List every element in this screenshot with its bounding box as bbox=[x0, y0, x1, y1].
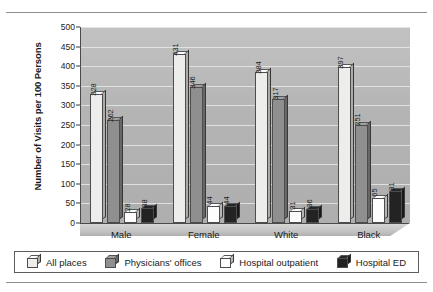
bar[interactable]: 431 bbox=[173, 54, 186, 223]
bar-slot: 81 bbox=[388, 27, 403, 223]
bar[interactable]: 262 bbox=[107, 120, 120, 223]
bar-value-label: 31 bbox=[288, 202, 296, 210]
bar-value-label: 44 bbox=[223, 197, 231, 205]
legend-swatch-icon bbox=[27, 258, 38, 268]
bar-group-bars: 3843173136 bbox=[246, 27, 329, 223]
legend-swatch-icon bbox=[337, 258, 348, 268]
bar-slot: 262 bbox=[106, 27, 121, 223]
bar-slot: 36 bbox=[305, 27, 320, 223]
bar-value-label: 38 bbox=[140, 199, 148, 207]
bar-group: 3972516581 bbox=[329, 27, 411, 223]
legend-item-label: Physicians' offices bbox=[124, 257, 201, 268]
bar-value-label: 65 bbox=[371, 188, 379, 196]
y-tick-label: 200 bbox=[61, 140, 75, 150]
bar-group: 3843173136 bbox=[246, 27, 329, 223]
chart-legend: All placesPhysicians' officesHospital ou… bbox=[14, 251, 419, 273]
y-axis-ticks: 050100150200250300350400450500 bbox=[46, 27, 80, 223]
x-axis-labels: MaleFemaleWhiteBlack bbox=[80, 229, 410, 240]
bar-value-label: 28 bbox=[123, 203, 131, 211]
bar-value-label: 36 bbox=[305, 200, 313, 208]
legend-item-label: Hospital outpatient bbox=[239, 257, 318, 268]
bar-group-bars: 4313464444 bbox=[164, 27, 247, 223]
bar[interactable]: 38 bbox=[141, 208, 154, 223]
y-tick-label: 450 bbox=[61, 42, 75, 52]
bar-slot: 44 bbox=[206, 27, 221, 223]
bar[interactable]: 44 bbox=[207, 206, 220, 223]
y-tick-label: 150 bbox=[61, 159, 75, 169]
bar-slot: 44 bbox=[223, 27, 238, 223]
bar-slot: 28 bbox=[123, 27, 138, 223]
legend-item-label: Hospital ED bbox=[356, 257, 406, 268]
bar[interactable]: 328 bbox=[90, 94, 103, 223]
bar-slot: 431 bbox=[172, 27, 187, 223]
bar-slot: 251 bbox=[354, 27, 369, 223]
bar-slot: 317 bbox=[271, 27, 286, 223]
y-tick-label: 50 bbox=[66, 198, 75, 208]
bar[interactable]: 346 bbox=[190, 87, 203, 223]
bar-chart-figure: Number of Visits per 100 Persons 0501001… bbox=[0, 13, 433, 281]
bar-slot: 38 bbox=[140, 27, 155, 223]
legend-item[interactable]: Hospital outpatient bbox=[220, 256, 318, 268]
bar-slot: 346 bbox=[189, 27, 204, 223]
bar[interactable]: 397 bbox=[338, 67, 351, 223]
bar[interactable]: 317 bbox=[272, 99, 285, 223]
bar-group-bars: 3282622838 bbox=[81, 27, 164, 223]
bar-slot: 397 bbox=[337, 27, 352, 223]
bar-value-label: 431 bbox=[172, 43, 180, 56]
bar[interactable]: 44 bbox=[224, 206, 237, 223]
y-tick-label: 400 bbox=[61, 61, 75, 71]
page-rule-bottom bbox=[6, 282, 427, 283]
bar-value-label: 384 bbox=[254, 61, 262, 74]
bar-group: 4313464444 bbox=[164, 27, 247, 223]
bar-value-label: 397 bbox=[337, 56, 345, 69]
plot-wrapper: 050100150200250300350400450500 328262283… bbox=[80, 27, 410, 223]
y-tick-label: 250 bbox=[61, 120, 75, 130]
bar-value-label: 328 bbox=[89, 83, 97, 96]
bar[interactable]: 384 bbox=[255, 72, 268, 223]
bar[interactable]: 65 bbox=[372, 198, 385, 223]
x-axis-category-label: Male bbox=[80, 229, 163, 240]
y-tick-label: 500 bbox=[61, 22, 75, 32]
bar-value-label: 262 bbox=[106, 109, 114, 122]
bar-group-bars: 3972516581 bbox=[329, 27, 411, 223]
plot-area: 3282622838431346444438431731363972516581 bbox=[80, 27, 410, 223]
bar-slot: 65 bbox=[371, 27, 386, 223]
y-tick-label: 100 bbox=[61, 179, 75, 189]
bar-value-label: 251 bbox=[354, 113, 362, 126]
legend-item[interactable]: Physicians' offices bbox=[105, 256, 201, 268]
bar-slot: 31 bbox=[288, 27, 303, 223]
legend-item[interactable]: Hospital ED bbox=[337, 256, 406, 268]
y-tick-label: 300 bbox=[61, 100, 75, 110]
legend-swatch-icon bbox=[220, 258, 231, 268]
bar[interactable]: 31 bbox=[289, 211, 302, 223]
legend-item-label: All places bbox=[46, 257, 87, 268]
bar-value-label: 317 bbox=[271, 87, 279, 100]
bar[interactable]: 251 bbox=[355, 125, 368, 223]
bar-value-label: 81 bbox=[388, 182, 396, 190]
y-tick-label: 350 bbox=[61, 81, 75, 91]
legend-swatch-icon bbox=[105, 258, 116, 268]
y-tick-label: 0 bbox=[70, 218, 75, 228]
bar-groups: 3282622838431346444438431731363972516581 bbox=[81, 27, 410, 223]
bar[interactable]: 36 bbox=[306, 209, 319, 223]
bar[interactable]: 81 bbox=[389, 191, 402, 223]
bar-slot: 384 bbox=[254, 27, 269, 223]
x-axis-category-label: White bbox=[245, 229, 328, 240]
legend-item[interactable]: All places bbox=[27, 256, 87, 268]
bar[interactable]: 28 bbox=[124, 212, 137, 223]
bar-value-label: 346 bbox=[189, 76, 197, 89]
x-axis-category-label: Female bbox=[163, 229, 246, 240]
bar-slot: 328 bbox=[89, 27, 104, 223]
bar-value-label: 44 bbox=[206, 197, 214, 205]
bar-group: 3282622838 bbox=[81, 27, 164, 223]
y-axis-title: Number of Visits per 100 Persons bbox=[32, 32, 43, 202]
x-axis-category-label: Black bbox=[328, 229, 411, 240]
